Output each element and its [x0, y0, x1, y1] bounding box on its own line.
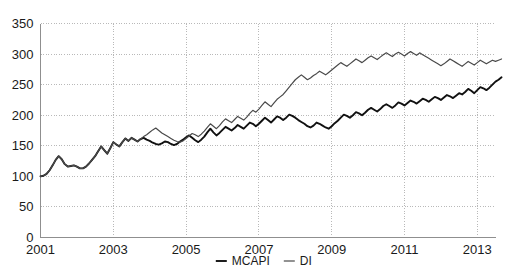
x-tick-label: 2001 [26, 242, 55, 257]
x-tick-label: 2005 [172, 242, 201, 257]
y-tick-label: 150 [12, 138, 34, 153]
x-tick-label: 2013 [463, 242, 492, 257]
x-tick-label: 2011 [391, 242, 419, 257]
y-tick-label: 100 [12, 169, 34, 184]
x-tick-label: 2009 [317, 242, 346, 257]
y-tick-label: 50 [19, 199, 33, 214]
y-tick-label: 300 [12, 47, 34, 62]
data-series-group [41, 52, 502, 177]
series-line-di [41, 52, 502, 177]
gridlines-group [41, 24, 496, 238]
legend-label-di: DI [300, 254, 312, 268]
y-tick-label: 350 [12, 16, 34, 31]
x-tick-label: 2003 [99, 242, 128, 257]
axes-group [41, 24, 496, 238]
chart-container: 050100150200250300350 200120032005200720… [0, 0, 510, 280]
y-tick-label: 250 [12, 77, 34, 92]
chart-legend: MCAPIDI [216, 254, 312, 268]
y-axis-tick-labels: 050100150200250300350 [12, 16, 34, 245]
series-line-mcapi [41, 77, 502, 176]
legend-label-mcapi: MCAPI [232, 254, 270, 268]
line-chart: 050100150200250300350 200120032005200720… [0, 0, 510, 280]
y-tick-label: 200 [12, 108, 34, 123]
